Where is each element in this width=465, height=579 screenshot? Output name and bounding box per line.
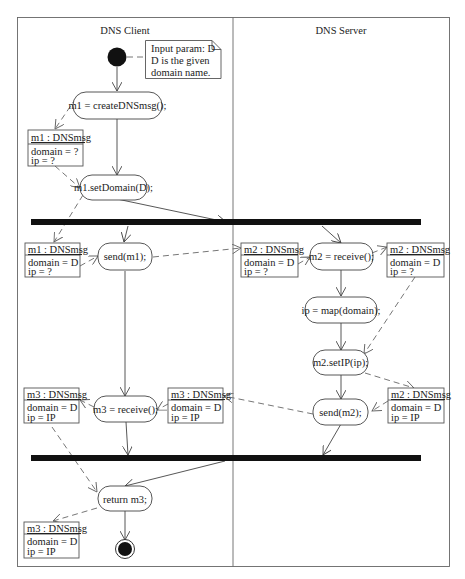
note-line-2: D is the given — [151, 55, 210, 66]
note-line-3: domain name. — [151, 67, 210, 78]
svg-text:ip = ?: ip = ? — [31, 155, 55, 166]
objflow-setip-o5 — [365, 373, 414, 388]
action-receive-m2: m2 = receive(); — [309, 243, 374, 270]
svg-text:ip = IP: ip = IP — [27, 546, 56, 557]
action-set-domain: m1.setDomain(D); — [74, 175, 153, 200]
object-m2-with-ip: m2 : DNSmsg domain = D ip = IP — [388, 388, 452, 423]
svg-text:m3 = receive();: m3 = receive(); — [93, 404, 158, 416]
flow-receive3-join — [126, 422, 128, 455]
svg-text:ip = map(domain);: ip = map(domain); — [302, 305, 381, 317]
final-node — [116, 540, 135, 559]
action-send-m1: send(m1); — [98, 243, 152, 270]
objflow-return-o8 — [53, 508, 97, 521]
note: Input param: D D is the given domain nam… — [146, 41, 222, 79]
join-bar — [31, 455, 421, 461]
objflow-receive2-o4 — [372, 247, 387, 253]
object-m3-received: m3 : DNSmsg domain = D ip = IP — [24, 388, 88, 423]
svg-text:send(m1);: send(m1); — [104, 251, 147, 263]
svg-text:m1.setDomain(D);: m1.setDomain(D); — [74, 182, 153, 194]
svg-text:m1 = createDNSmsg();: m1 = createDNSmsg(); — [68, 100, 166, 112]
svg-text:ip = ?: ip = ? — [28, 266, 52, 277]
svg-text:m2.setIP(ip);: m2.setIP(ip); — [313, 357, 368, 369]
action-create-dnsmsg: m1 = createDNSmsg(); — [68, 92, 166, 119]
object-m1-initial: m1 : DNSmsg domain = ? ip = ? — [28, 130, 92, 166]
action-return-m3: return m3; — [98, 486, 152, 511]
object-m2-received: m2 : DNSmsg domain = D ip = ? — [241, 243, 305, 277]
svg-text:ip = ?: ip = ? — [244, 266, 268, 277]
activity-diagram: DNS Client DNS Server Input param: D D i… — [0, 0, 465, 579]
object-m3-incoming: m3 : DNSmsg domain = D ip = IP — [168, 388, 232, 423]
flow-fork-send1 — [124, 226, 128, 242]
action-set-ip: m2.setIP(ip); — [313, 350, 368, 375]
svg-text:ip = IP: ip = IP — [391, 412, 420, 423]
swimlane-client-label: DNS Client — [100, 25, 149, 36]
object-m2-after-receive: m2 : DNSmsg domain = D ip = ? — [387, 243, 451, 277]
action-map-domain: ip = map(domain); — [302, 297, 381, 323]
objflow-receive3-o7 — [80, 400, 94, 407]
objflow-o6-receive3 — [157, 404, 168, 410]
initial-node — [108, 48, 127, 67]
flow-setdomain-fork — [117, 199, 226, 222]
action-receive-m3: m3 = receive(); — [93, 396, 158, 422]
object-m3-returned: m3 : DNSmsg domain = D ip = IP — [24, 522, 88, 558]
flow-fork-receive2 — [322, 226, 341, 243]
svg-text:ip = IP: ip = IP — [27, 412, 56, 423]
svg-text:ip = ?: ip = ? — [390, 266, 414, 277]
object-m1-with-domain: m1 : DNSmsg domain = D ip = ? — [25, 243, 89, 277]
action-send-m2: send(m2); — [313, 399, 368, 425]
flow-send2-join — [323, 424, 341, 455]
objflow-send2-o6 — [224, 396, 313, 414]
svg-text:return m3;: return m3; — [103, 494, 147, 505]
svg-text:send(m2);: send(m2); — [319, 407, 362, 419]
swimlane-server-label: DNS Server — [315, 25, 367, 36]
objflow-setdomain-o2 — [54, 195, 83, 242]
svg-text:m3 : DNSmsg: m3 : DNSmsg — [27, 523, 88, 534]
objflow-send1-o3 — [153, 248, 241, 257]
objflow-o5-send2 — [372, 401, 388, 411]
svg-text:m3 : DNSmsg: m3 : DNSmsg — [171, 389, 232, 400]
svg-text:m2 : DNSmsg: m2 : DNSmsg — [244, 244, 305, 255]
note-line-1: Input param: D — [151, 43, 216, 54]
svg-text:m2 : DNSmsg: m2 : DNSmsg — [390, 244, 451, 255]
objflow-o2-send1 — [80, 256, 98, 266]
svg-text:m1 : DNSmsg: m1 : DNSmsg — [28, 244, 89, 255]
svg-text:m3 : DNSmsg: m3 : DNSmsg — [27, 389, 88, 400]
svg-text:m1 : DNSmsg: m1 : DNSmsg — [31, 132, 92, 143]
fork-bar — [31, 219, 421, 225]
svg-text:ip = IP: ip = IP — [171, 412, 200, 423]
svg-text:m2 = receive();: m2 = receive(); — [309, 251, 374, 263]
flow-join-return — [125, 461, 225, 486]
svg-text:m2 : DNSmsg: m2 : DNSmsg — [391, 389, 452, 400]
